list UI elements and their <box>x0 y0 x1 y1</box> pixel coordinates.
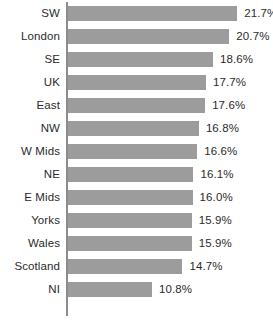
bar <box>68 6 238 21</box>
bar-row: London20.7% <box>0 25 273 48</box>
bar-value-label: 21.7% <box>244 2 273 25</box>
bar-row: E Mids16.0% <box>0 186 273 209</box>
category-label: Yorks <box>0 209 60 232</box>
bar-value-label: 15.9% <box>199 209 232 232</box>
bar <box>68 98 206 113</box>
bar-value-label: 16.6% <box>204 140 237 163</box>
bar-value-label: 16.1% <box>200 163 233 186</box>
bar-value-label: 17.6% <box>212 94 245 117</box>
bar <box>68 52 213 67</box>
bar-row: East17.6% <box>0 94 273 117</box>
bar-row: SE18.6% <box>0 48 273 71</box>
bar <box>68 190 193 205</box>
bar-row: W Mids16.6% <box>0 140 273 163</box>
category-label: UK <box>0 71 60 94</box>
category-label: NW <box>0 117 60 140</box>
category-label: NE <box>0 163 60 186</box>
category-label: SE <box>0 48 60 71</box>
bar-value-label: 14.7% <box>189 255 222 278</box>
bar <box>68 167 194 182</box>
bar <box>68 121 199 136</box>
bar <box>68 236 192 251</box>
category-label: London <box>0 25 60 48</box>
category-label: East <box>0 94 60 117</box>
category-label: NI <box>0 278 60 301</box>
bar-value-label: 18.6% <box>220 48 253 71</box>
bar <box>68 29 230 44</box>
category-label: E Mids <box>0 186 60 209</box>
bar-row: Yorks15.9% <box>0 209 273 232</box>
category-label: Scotland <box>0 255 60 278</box>
bar <box>68 75 206 90</box>
bar-value-label: 16.0% <box>200 186 233 209</box>
bar-row: Wales15.9% <box>0 232 273 255</box>
category-label: SW <box>0 2 60 25</box>
bar-row: Scotland14.7% <box>0 255 273 278</box>
bar-value-label: 20.7% <box>236 25 269 48</box>
bar-value-label: 15.9% <box>199 232 232 255</box>
bar <box>68 144 198 159</box>
bar-value-label: 10.8% <box>159 278 192 301</box>
bar-row: NI10.8% <box>0 278 273 301</box>
bar-value-label: 16.8% <box>206 117 239 140</box>
bar-chart: SW21.7%London20.7%SE18.6%UK17.7%East17.6… <box>0 0 273 321</box>
bar-row: UK17.7% <box>0 71 273 94</box>
bar <box>68 259 183 274</box>
bar <box>68 213 192 228</box>
bar-row: NE16.1% <box>0 163 273 186</box>
category-label: W Mids <box>0 140 60 163</box>
bar-row: NW16.8% <box>0 117 273 140</box>
bar <box>68 282 152 297</box>
bar-value-label: 17.7% <box>213 71 246 94</box>
category-label: Wales <box>0 232 60 255</box>
bar-row: SW21.7% <box>0 2 273 25</box>
